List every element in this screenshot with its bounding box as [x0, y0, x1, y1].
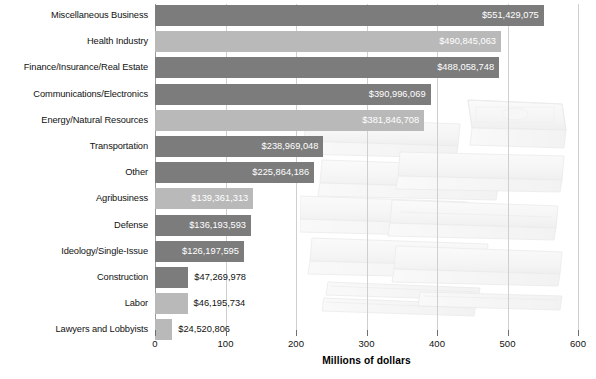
bar-value-label: $488,058,748 — [155, 57, 499, 78]
bar-value-label: $551,429,075 — [155, 5, 544, 26]
bar-track: $488,058,748 — [155, 57, 578, 78]
bar-track: $139,361,313 — [155, 188, 578, 209]
bar-row: Communications/Electronics$390,996,069 — [0, 84, 596, 105]
bar-value-label: $381,846,708 — [155, 110, 424, 131]
bar-row: Transportation$238,969,048 — [0, 136, 596, 157]
x-tick-label-100: 100 — [218, 338, 234, 349]
bar-track: $551,429,075 — [155, 5, 578, 26]
bar-row: Defense$136,193,593 — [0, 215, 596, 236]
x-tick-label-0: 0 — [152, 338, 157, 349]
bar-row: Health Industry$490,845,063 — [0, 31, 596, 52]
x-tick-100 — [226, 330, 227, 336]
x-tick-label-400: 400 — [429, 338, 445, 349]
bar-value-label: $490,845,063 — [155, 31, 501, 52]
category-label: Miscellaneous Business — [0, 5, 148, 26]
bar-track: $381,846,708 — [155, 110, 578, 131]
category-label: Agribusiness — [0, 188, 148, 209]
bar-value-label: $136,193,593 — [155, 215, 251, 236]
category-label: Health Industry — [0, 31, 148, 52]
bar-value-label: $139,361,313 — [155, 188, 253, 209]
bar[interactable] — [155, 267, 188, 288]
x-axis: 0 100 200 300 400 500 600 — [155, 330, 578, 350]
x-tick-label-300: 300 — [359, 338, 375, 349]
bar-row: Ideology/Single-Issue$126,197,595 — [0, 241, 596, 262]
bar-track: $490,845,063 — [155, 31, 578, 52]
bar-row: Agribusiness$139,361,313 — [0, 188, 596, 209]
bar-value-label: $126,197,595 — [155, 241, 244, 262]
category-label: Finance/Insurance/Real Estate — [0, 57, 148, 78]
bar-row: Construction$47,269,978 — [0, 267, 596, 288]
bar-track: $238,969,048 — [155, 136, 578, 157]
bar-track: $126,197,595 — [155, 241, 578, 262]
x-tick-500 — [508, 330, 509, 336]
category-label: Communications/Electronics — [0, 84, 148, 105]
bar-value-label: $390,996,069 — [155, 84, 431, 105]
x-tick-200 — [296, 330, 297, 336]
bar-row: Energy/Natural Resources$381,846,708 — [0, 110, 596, 131]
x-tick-600 — [578, 330, 579, 336]
x-tick-label-200: 200 — [288, 338, 304, 349]
bar-value-label: $47,269,978 — [194, 267, 246, 288]
bar-chart: Miscellaneous Business$551,429,075Health… — [0, 0, 596, 379]
x-tick-0 — [155, 330, 156, 336]
x-tick-400 — [437, 330, 438, 336]
category-label: Defense — [0, 215, 148, 236]
bar-row: Finance/Insurance/Real Estate$488,058,74… — [0, 57, 596, 78]
x-tick-300 — [367, 330, 368, 336]
bar-track: $136,193,593 — [155, 215, 578, 236]
bar-track: $225,864,186 — [155, 162, 578, 183]
category-label: Construction — [0, 267, 148, 288]
category-label: Energy/Natural Resources — [0, 110, 148, 131]
category-label: Labor — [0, 293, 148, 314]
bar-row: Miscellaneous Business$551,429,075 — [0, 5, 596, 26]
bar[interactable] — [155, 293, 188, 314]
category-label: Other — [0, 162, 148, 183]
bar-row: Other$225,864,186 — [0, 162, 596, 183]
category-label: Ideology/Single-Issue — [0, 241, 148, 262]
bar-track: $46,195,734 — [155, 293, 578, 314]
bar-value-label: $225,864,186 — [155, 162, 314, 183]
bar-row: Labor$46,195,734 — [0, 293, 596, 314]
bar-value-label: $238,969,048 — [155, 136, 323, 157]
bar-track: $47,269,978 — [155, 267, 578, 288]
x-tick-label-500: 500 — [500, 338, 516, 349]
bar-value-label: $46,195,734 — [194, 293, 246, 314]
x-axis-title: Millions of dollars — [155, 355, 578, 366]
bar-track: $390,996,069 — [155, 84, 578, 105]
category-label: Lawyers and Lobbyists — [0, 319, 148, 340]
x-tick-label-600: 600 — [570, 338, 586, 349]
category-label: Transportation — [0, 136, 148, 157]
